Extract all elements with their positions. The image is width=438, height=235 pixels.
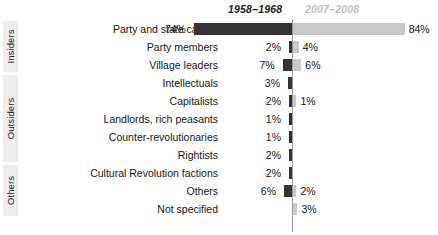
bar-segment-right — [293, 59, 301, 71]
center-axis-line — [292, 20, 293, 232]
chart-row: Party and state cadres74%84% — [0, 20, 438, 38]
value-label-left: 2% — [0, 38, 285, 56]
chart-row: Not specified3% — [0, 200, 438, 218]
value-label-left: 1% — [0, 110, 285, 128]
value-label-right: 4% — [303, 38, 318, 56]
chart-row: Landlords, rich peasants1% — [0, 110, 438, 128]
chart-row: Village leaders7%6% — [0, 56, 438, 74]
chart-row: Counter-revolutionaries1% — [0, 128, 438, 146]
bar-segment-right — [293, 203, 297, 215]
bar-segment-right — [293, 23, 404, 35]
value-label-left: 7% — [0, 56, 279, 74]
value-label-left: 74% — [0, 20, 190, 38]
bar-segment-left — [284, 185, 292, 197]
value-label-left: 1% — [0, 128, 285, 146]
value-label-left: 3% — [0, 74, 284, 92]
value-label-left: 2% — [0, 146, 285, 164]
value-label-right: 1% — [300, 92, 315, 110]
chart-row: Capitalists2%1% — [0, 92, 438, 110]
row-category-label: Not specified — [20, 200, 218, 218]
chart-legend: 1958–1968 2007–2008 — [0, 3, 438, 19]
bar-segment-right — [293, 41, 298, 53]
bar-segment-right — [293, 185, 296, 197]
value-label-left: 2% — [0, 92, 285, 110]
diverging-bar-chart: 1958–1968 2007–2008 InsidersOutsidersOth… — [0, 0, 438, 235]
chart-row: Party members2%4% — [0, 38, 438, 56]
legend-item-2007-2008: 2007–2008 — [305, 3, 359, 15]
bar-segment-left — [283, 59, 292, 71]
chart-rows: Party and state cadres74%84%Party member… — [0, 20, 438, 218]
value-label-left: 2% — [0, 164, 285, 182]
value-label-left: 6% — [0, 182, 280, 200]
chart-row: Cultural Revolution factions2% — [0, 164, 438, 182]
value-label-right: 6% — [305, 56, 320, 74]
value-label-right: 3% — [301, 200, 316, 218]
value-label-right: 84% — [409, 20, 430, 38]
chart-row: Others6%2% — [0, 182, 438, 200]
legend-item-1958-1968: 1958–1968 — [228, 3, 282, 15]
chart-row: Rightists2% — [0, 146, 438, 164]
bar-segment-left — [194, 23, 292, 35]
value-label-right: 2% — [300, 182, 315, 200]
chart-row: Intellectuals3% — [0, 74, 438, 92]
bar-segment-right — [293, 95, 296, 107]
